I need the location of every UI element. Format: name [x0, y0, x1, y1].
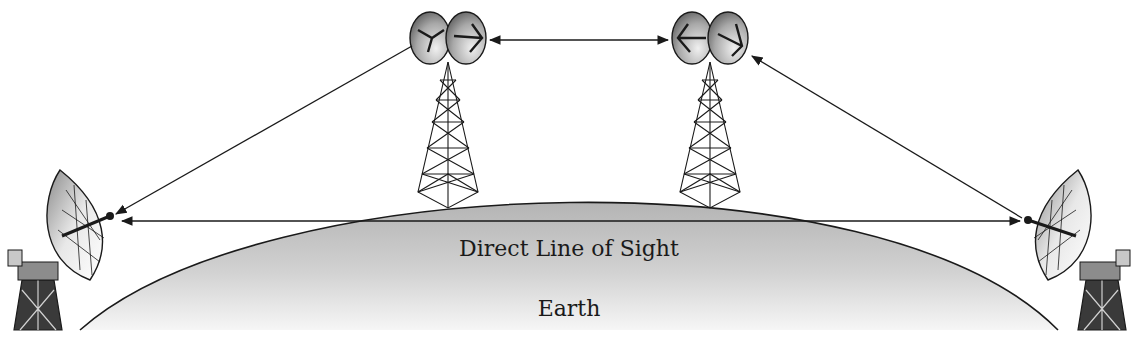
relay-dishes-right [672, 12, 748, 64]
ground-dish-right [1024, 170, 1130, 330]
ground-dish-left [8, 170, 114, 330]
link-tower1-to-left-dish [116, 46, 412, 214]
link-right-dish-to-tower2 [752, 56, 1022, 218]
line-of-sight-diagram [0, 0, 1138, 347]
relay-tower-left [418, 62, 478, 208]
direct-line-of-sight-label: Direct Line of Sight [459, 236, 679, 261]
signal-links [116, 40, 1022, 221]
relay-dishes-left [410, 12, 486, 64]
earth-label: Earth [538, 296, 601, 321]
relay-tower-right [680, 62, 740, 208]
